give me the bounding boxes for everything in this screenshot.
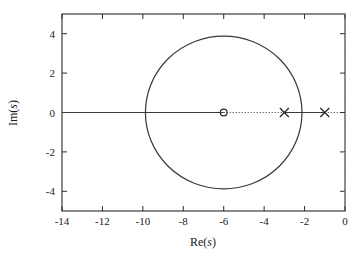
x-tick-label: -6 — [219, 215, 229, 227]
x-tick-label: -10 — [136, 215, 151, 227]
x-tick-label: -2 — [300, 215, 309, 227]
y-tick-label: -2 — [46, 146, 55, 158]
root-locus-plot: -14-12-10-8-6-4-20 420-2-4 Re(s) Im(s) — [0, 0, 362, 265]
x-tick-label: 0 — [342, 215, 348, 227]
x-tick-label: -8 — [179, 215, 189, 227]
x-axis-title: Re(s) — [190, 235, 216, 249]
y-tick-label: 0 — [50, 107, 56, 119]
x-axis-tick-labels: -14-12-10-8-6-4-20 — [55, 215, 349, 227]
x-tick-label: -4 — [260, 215, 270, 227]
y-tick-label: -4 — [46, 185, 56, 197]
x-tick-label: -14 — [55, 215, 70, 227]
y-tick-label: 4 — [50, 28, 56, 40]
plot-canvas: -14-12-10-8-6-4-20 420-2-4 Re(s) Im(s) — [0, 0, 362, 265]
y-tick-label: 2 — [50, 67, 56, 79]
y-axis-title: Im(s) — [6, 100, 20, 126]
x-tick-label: -12 — [95, 215, 110, 227]
y-axis-tick-labels: 420-2-4 — [46, 28, 56, 198]
